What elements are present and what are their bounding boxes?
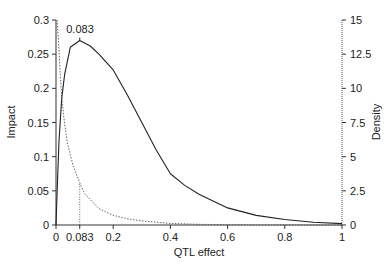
y2-tick-label: 10 <box>350 82 362 94</box>
y-axis-title-right: Density <box>370 103 382 140</box>
y2-tick-label: 7.5 <box>350 117 365 129</box>
y2-tick-label: 12.5 <box>350 48 371 60</box>
y-tick-label: 0.1 <box>34 151 49 163</box>
x-tick-label: 0.8 <box>277 231 292 243</box>
x-tick-label: 0.083 <box>66 231 94 243</box>
y-tick-label: 0.05 <box>28 185 49 197</box>
y-tick-label: 0 <box>43 219 49 231</box>
impact-density-chart: 00.050.10.150.20.250.302.557.51012.51500… <box>0 0 388 265</box>
x-tick-label: 0.6 <box>220 231 235 243</box>
impact-curve <box>56 41 342 226</box>
y2-tick-label: 15 <box>350 14 362 26</box>
x-tick-label: 0.2 <box>106 231 121 243</box>
y2-tick-label: 2.5 <box>350 185 365 197</box>
y-tick-label: 0.15 <box>28 117 49 129</box>
y-tick-label: 0.2 <box>34 82 49 94</box>
y-tick-label: 0.3 <box>34 14 49 26</box>
x-axis-title: QTL effect <box>174 246 225 258</box>
x-tick-label: 0.4 <box>163 231 178 243</box>
peak-annotation: 0.083 <box>66 23 94 35</box>
y-tick-label: 0.25 <box>28 48 49 60</box>
y2-tick-label: 0 <box>350 219 356 231</box>
x-tick-label: 1 <box>339 231 345 243</box>
y-axis-title-left: Impact <box>5 105 17 138</box>
y2-tick-label: 5 <box>350 151 356 163</box>
x-tick-label: 0 <box>53 231 59 243</box>
